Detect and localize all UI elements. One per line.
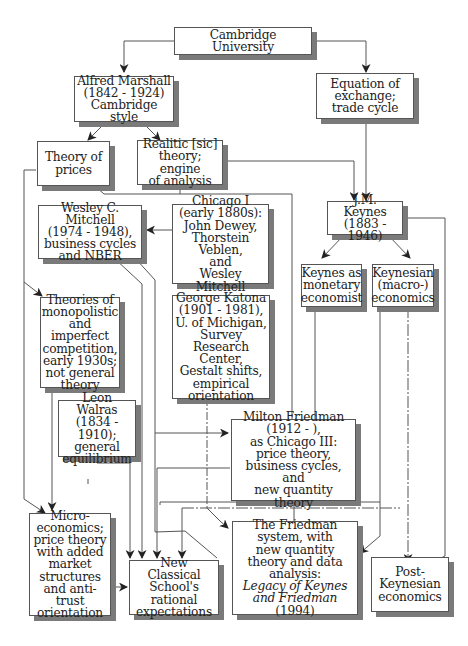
node-post-keynesian: Post- Keynesian economics xyxy=(371,557,449,612)
node-friedman-system: The Friedman system, with new quantity t… xyxy=(232,521,358,615)
node-realitic-theory: Realitic [sic] theory; engine of analysi… xyxy=(137,140,223,185)
node-equation-of-exchange: Equation of exchange; trade cycle xyxy=(316,73,414,119)
node-george-katona: George Katona (1901 - 1981), U. of Michi… xyxy=(172,295,270,399)
diagram-canvas: Cambridge University Alfred Marshall (18… xyxy=(0,0,468,646)
node-microeconomics: Micro- economics; price theory with adde… xyxy=(29,513,111,616)
node-milton-friedman: Milton Friedman (1912 - ), as Chicago II… xyxy=(231,419,356,501)
node-chicago-i: Chicago I (early 1880s): John Dewey, Tho… xyxy=(172,204,269,284)
friedman-system-text: The Friedman system, with new quantity t… xyxy=(248,518,343,581)
node-alfred-marshall: Alfred Marshall (1842 - 1924) Cambridge … xyxy=(74,76,174,122)
book-year: (1994) xyxy=(275,604,314,618)
node-keynes-monetary-economist: Keynes as monetary economist xyxy=(301,264,362,307)
node-jm-keynes: J.M. Keynes (1883 - 1946) xyxy=(327,201,403,235)
node-wesley-mitchell: Wesley C. Mitchell (1974 - 1948), busine… xyxy=(38,205,142,259)
node-cambridge-university: Cambridge University xyxy=(174,27,312,55)
node-leon-walras: Leon Walras (1834 - 1910); general equil… xyxy=(58,400,136,457)
node-keynesian-macroeconomics: Keynesian (macro-) economics xyxy=(372,264,434,307)
node-monopolistic-competition: Theories of monopolistic and imperfect c… xyxy=(40,297,120,388)
node-new-classical-school: New Classical School's rational expectat… xyxy=(129,560,219,615)
node-theory-of-prices: Theory of prices xyxy=(37,141,110,186)
